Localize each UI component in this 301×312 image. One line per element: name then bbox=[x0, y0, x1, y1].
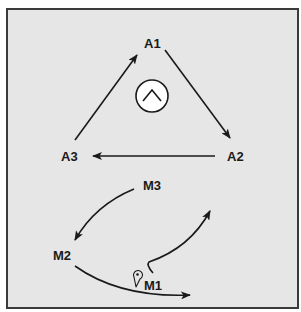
node-label-m3: M3 bbox=[143, 178, 161, 193]
edge-m2-to-m1 bbox=[75, 266, 190, 295]
node-label-m2: M2 bbox=[53, 248, 71, 263]
node-label-a1: A1 bbox=[144, 36, 161, 51]
node-label-a3: A3 bbox=[61, 149, 78, 164]
location-pin-icon bbox=[134, 270, 143, 287]
edge-m3-to-m2 bbox=[75, 189, 134, 240]
node-label-a2: A2 bbox=[227, 149, 244, 164]
up-chevron-in-circle-icon bbox=[136, 80, 168, 112]
node-label-m1: M1 bbox=[144, 278, 162, 293]
edge-a1-to-a2 bbox=[165, 50, 230, 138]
edge-a3-to-a1 bbox=[75, 55, 137, 140]
edge-m1-to-upper-right bbox=[148, 211, 210, 273]
diagram-canvas: A1 A2 A3 M3 M2 M1 bbox=[0, 0, 301, 312]
